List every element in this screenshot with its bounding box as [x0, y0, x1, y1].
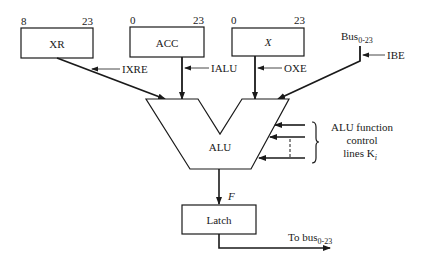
- ibe-label: IBE: [387, 49, 405, 61]
- register-x-bit-low: 0: [231, 14, 237, 26]
- alu-datapath-diagram: XR 8 23 IXRE ACC 0 23 IALU X 0 23 OXE Bu…: [0, 0, 422, 258]
- register-xr-bit-high: 23: [82, 15, 94, 27]
- function-control-label-3: lines Ki: [343, 147, 377, 162]
- register-x-bit-high: 23: [294, 14, 306, 26]
- ixre-label: IXRE: [122, 63, 148, 75]
- function-control-label-2: control: [346, 134, 377, 146]
- alu-output-label: F: [227, 190, 235, 202]
- register-acc-bit-high: 23: [193, 14, 205, 26]
- output-bus-label: To bus0-23: [288, 231, 332, 246]
- register-x-label: X: [264, 36, 273, 48]
- register-acc: ACC 0 23: [130, 14, 205, 57]
- register-xr-label: XR: [49, 38, 65, 50]
- alu-label: ALU: [209, 141, 232, 153]
- brace-icon: [312, 122, 319, 163]
- xr-to-alu-arrow: [57, 58, 165, 99]
- oxe-label: OXE: [284, 62, 307, 74]
- latch-label: Latch: [206, 214, 232, 226]
- register-xr-bit-low: 8: [21, 15, 27, 27]
- register-xr: XR 8 23: [21, 15, 94, 58]
- register-acc-bit-low: 0: [130, 14, 136, 26]
- function-control-label-1: ALU function: [331, 121, 394, 133]
- bus-input-label: Bus0-23: [341, 30, 373, 45]
- ialu-label: IALU: [211, 62, 237, 74]
- register-acc-label: ACC: [156, 37, 179, 49]
- register-x: X 0 23: [231, 14, 306, 56]
